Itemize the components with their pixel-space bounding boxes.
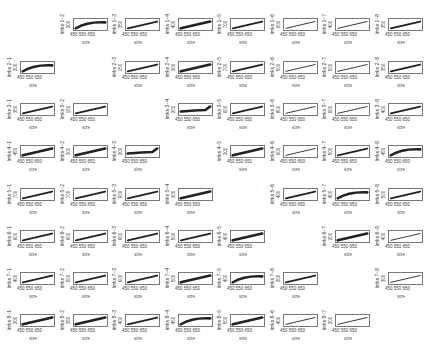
y-tick-text: 600 (276, 143, 281, 161)
y-tick-text: 300 (171, 59, 176, 77)
scatter-panel: lmks 4−6600450 550 650size (268, 139, 320, 181)
scatter-panel: lmks 6−3600450 550 650size (110, 224, 162, 266)
scatter-points (336, 104, 369, 115)
x-tick-labels: 450 550 650 (385, 32, 425, 37)
x-tick-labels: 450 550 650 (280, 75, 320, 80)
x-tick-labels: 450 550 650 (70, 202, 110, 207)
x-axis-label: size (29, 167, 37, 172)
x-tick-labels: 450 550 650 (280, 286, 320, 291)
x-axis-label: size (82, 210, 90, 215)
x-axis-label: size (239, 40, 247, 45)
plot-area (283, 314, 318, 327)
x-tick-labels: 450 550 650 (122, 328, 162, 333)
x-tick-labels: 450 550 650 (385, 286, 425, 291)
scatter-panel: lmks 7−3600450 550 650size (110, 266, 162, 308)
scatter-panel: lmks 1−7400450 550 650size (320, 12, 372, 54)
y-tick-text: 800 (276, 101, 281, 119)
x-axis-label: size (292, 83, 300, 88)
y-tick-text: 350 (381, 59, 386, 77)
plot-area (230, 61, 265, 74)
plot-area (230, 103, 265, 116)
x-tick-labels: 450 550 650 (332, 117, 372, 122)
x-tick-labels: 450 550 650 (332, 75, 372, 80)
x-axis-label: size (82, 336, 90, 341)
scatter-points (389, 189, 422, 200)
x-tick-labels: 450 550 650 (122, 202, 162, 207)
scatter-panel: lmks 8−7200450 550 650size (320, 308, 372, 350)
scatter-panel: lmks 3−2150450 550 650size (58, 97, 110, 139)
scatter-panel: lmks 8−4450450 550 650size (163, 308, 215, 350)
y-tick-text: 350 (381, 16, 386, 34)
x-tick-labels: 450 550 650 (17, 117, 57, 122)
x-axis-label: size (187, 252, 195, 257)
x-axis-label: size (397, 83, 405, 88)
y-tick-text: 200 (328, 312, 333, 330)
y-tick-text: 400 (328, 186, 333, 204)
x-axis-label: size (239, 125, 247, 130)
scatter-points (21, 189, 54, 200)
scatter-points (179, 315, 212, 326)
y-tick-text: 700 (66, 186, 71, 204)
scatter-panel: lmks 1−2200450 550 650size (58, 12, 110, 54)
scatter-points (179, 231, 212, 242)
x-axis-label: size (344, 336, 352, 341)
y-tick-text: 400 (13, 270, 18, 288)
y-tick-text: 150 (118, 59, 123, 77)
scatter-panel: lmks 4−7500450 550 650size (320, 139, 372, 181)
scatter-points (126, 273, 159, 284)
y-tick-text: 500 (171, 228, 176, 246)
x-axis-label: size (29, 294, 37, 299)
y-tick-text: 200 (66, 16, 71, 34)
x-tick-labels: 450 550 650 (227, 159, 267, 164)
scatter-panel: lmks 5−7400450 550 650size (320, 182, 372, 224)
x-axis-label: size (29, 210, 37, 215)
x-axis-label: size (82, 167, 90, 172)
scatter-panel: lmks 3−7600450 550 650size (320, 97, 372, 139)
plot-area (388, 230, 423, 243)
x-axis-label: size (239, 336, 247, 341)
scatter-panel: lmks 4−8450450 550 650size (373, 139, 425, 181)
scatter-points (74, 146, 107, 157)
scatter-points (126, 231, 159, 242)
scatter-panel: lmks 2−3150450 550 650size (110, 55, 162, 97)
scatter-points (231, 62, 264, 73)
x-axis-label: size (29, 83, 37, 88)
plot-area (335, 314, 370, 327)
x-tick-labels: 450 550 650 (227, 32, 267, 37)
x-tick-labels: 450 550 650 (332, 159, 372, 164)
scatter-panel: lmks 4−5300450 550 650size (215, 139, 267, 181)
y-tick-text: 200 (13, 312, 18, 330)
x-tick-labels: 450 550 650 (17, 75, 57, 80)
scatter-points (389, 146, 422, 157)
scatter-panel: lmks 5−4300450 550 650size (163, 182, 215, 224)
plot-area (178, 103, 213, 116)
y-tick-text: 600 (276, 16, 281, 34)
x-tick-labels: 450 550 650 (175, 286, 215, 291)
x-tick-labels: 450 550 650 (17, 202, 57, 207)
x-tick-labels: 450 550 650 (122, 75, 162, 80)
scatter-points (231, 19, 264, 30)
x-tick-labels: 450 550 650 (385, 75, 425, 80)
x-axis-label: size (344, 210, 352, 215)
scatter-panel: lmks 1−8350450 550 650size (373, 12, 425, 54)
scatter-points (231, 104, 264, 115)
x-axis-label: size (239, 252, 247, 257)
y-tick-text: 200 (13, 59, 18, 77)
scatter-points (389, 273, 422, 284)
x-tick-labels: 450 550 650 (332, 32, 372, 37)
scatter-points (284, 19, 317, 30)
x-tick-labels: 450 550 650 (227, 286, 267, 291)
y-tick-text: 400 (223, 270, 228, 288)
plot-area (73, 272, 108, 285)
x-tick-labels: 450 550 650 (70, 117, 110, 122)
plot-area (388, 145, 423, 158)
y-tick-text: 600 (66, 228, 71, 246)
x-tick-labels: 450 550 650 (17, 328, 57, 333)
scatter-points (74, 104, 107, 115)
scatter-panel: lmks 6−8400450 550 650size (373, 224, 425, 266)
x-tick-labels: 450 550 650 (70, 32, 110, 37)
scatter-points (126, 19, 159, 30)
y-tick-text: 500 (381, 186, 386, 204)
x-tick-labels: 450 550 650 (70, 328, 110, 333)
plot-area (125, 18, 160, 31)
